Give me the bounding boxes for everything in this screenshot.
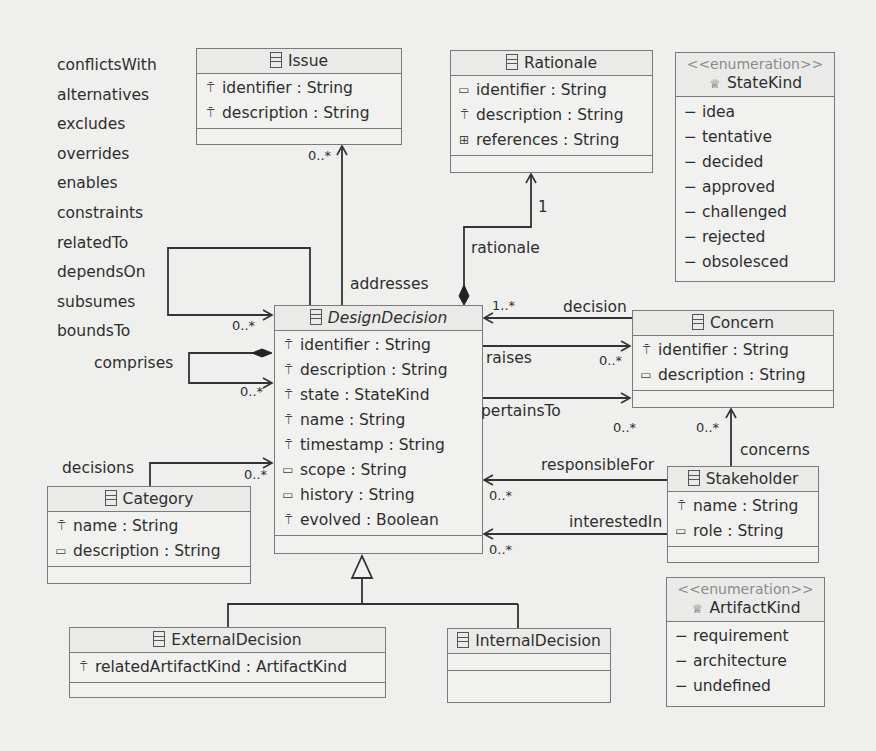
attribute[interactable]: ▭description : String bbox=[54, 539, 250, 564]
class-icon bbox=[105, 490, 117, 506]
attribute[interactable]: ⍑description : String bbox=[281, 358, 482, 383]
key-attribute-icon: ⍑ bbox=[76, 655, 90, 680]
class-icon bbox=[692, 314, 704, 330]
mult-rationale-source: 1..* bbox=[492, 298, 515, 313]
relation-kind: enables bbox=[57, 169, 157, 199]
enum-literal[interactable]: − tentative bbox=[676, 125, 834, 150]
relation-kind: conflictsWith bbox=[57, 51, 157, 81]
key-attribute-icon: ⍑ bbox=[203, 76, 217, 101]
multi-attribute-icon: ⊞ bbox=[457, 128, 471, 153]
label-interestedIn: interestedIn bbox=[569, 513, 662, 531]
enum-literal[interactable]: − requirement bbox=[667, 624, 824, 649]
key-attribute-icon: ⍑ bbox=[203, 101, 217, 126]
class-name: Category bbox=[123, 490, 194, 508]
class-icon bbox=[506, 54, 518, 70]
attribute[interactable]: ▭role : String bbox=[674, 519, 818, 544]
key-attribute-icon: ⍑ bbox=[639, 338, 653, 363]
class-designdecision[interactable]: DesignDecision ⍑identifier : String ⍑des… bbox=[274, 305, 483, 554]
enum-literal[interactable]: − rejected bbox=[676, 225, 834, 250]
class-name: InternalDecision bbox=[475, 632, 601, 650]
enum-statekind[interactable]: <<enumeration>> ♕StateKind − idea − tent… bbox=[675, 52, 835, 282]
attribute[interactable]: ▭scope : String bbox=[281, 458, 482, 483]
class-rationale[interactable]: Rationale ▭identifier : String ⍑descript… bbox=[450, 50, 653, 173]
mult-pertainsTo: 0..* bbox=[613, 420, 636, 435]
class-internaldecision[interactable]: InternalDecision bbox=[447, 628, 611, 703]
class-name: Rationale bbox=[524, 54, 597, 72]
mult-addresses: 0..* bbox=[308, 148, 331, 163]
enum-literal[interactable]: − idea bbox=[676, 100, 834, 125]
relation-kinds-list: conflictsWith alternatives excludes over… bbox=[57, 51, 157, 347]
class-name: Stakeholder bbox=[706, 470, 799, 488]
key-attribute-icon: ⍑ bbox=[281, 508, 295, 533]
class-icon bbox=[270, 52, 282, 68]
class-category[interactable]: Category ⍑name : String ▭description : S… bbox=[47, 486, 251, 584]
attribute[interactable]: ⍑evolved : Boolean bbox=[281, 508, 482, 533]
attribute[interactable]: ⍑identifier : String bbox=[203, 76, 401, 101]
enum-literal[interactable]: − undefined bbox=[667, 674, 824, 699]
key-attribute-icon: ⍑ bbox=[281, 383, 295, 408]
mult-raises: 0..* bbox=[599, 353, 622, 368]
relation-kind: overrides bbox=[57, 140, 157, 170]
key-attribute-icon: ⍑ bbox=[457, 103, 471, 128]
class-stakeholder[interactable]: Stakeholder ⍑name : String ▭role : Strin… bbox=[667, 466, 819, 563]
relation-kind: boundsTo bbox=[57, 317, 157, 347]
label-addresses: addresses bbox=[350, 275, 429, 293]
enum-literal[interactable]: − decided bbox=[676, 150, 834, 175]
relation-kind: dependsOn bbox=[57, 258, 157, 288]
label-decisions: decisions bbox=[62, 459, 134, 477]
attribute[interactable]: ⍑state : StateKind bbox=[281, 383, 482, 408]
key-attribute-icon: ⍑ bbox=[281, 433, 295, 458]
key-attribute-icon: ⍑ bbox=[54, 514, 68, 539]
class-name: StateKind bbox=[727, 74, 802, 92]
relation-kind: constraints bbox=[57, 199, 157, 229]
class-externaldecision[interactable]: ExternalDecision ⍑relatedArtifactKind : … bbox=[69, 627, 386, 698]
enum-literal[interactable]: − architecture bbox=[667, 649, 824, 674]
class-name: ArtifactKind bbox=[709, 599, 800, 617]
class-name: Concern bbox=[710, 314, 774, 332]
key-attribute-icon: ⍑ bbox=[281, 358, 295, 383]
label-raises: raises bbox=[486, 349, 532, 367]
mult-interestedIn: 0..* bbox=[489, 542, 512, 557]
class-icon bbox=[457, 632, 469, 648]
relation-kind: subsumes bbox=[57, 288, 157, 318]
attribute-icon: ▭ bbox=[54, 539, 68, 564]
label-comprises: comprises bbox=[94, 354, 173, 372]
enum-literal[interactable]: − approved bbox=[676, 175, 834, 200]
attribute[interactable]: ⍑name : String bbox=[674, 494, 818, 519]
attribute[interactable]: ⍑identifier : String bbox=[281, 333, 482, 358]
class-name: DesignDecision bbox=[328, 309, 448, 327]
attribute-compartment bbox=[448, 654, 610, 671]
stereotype: <<enumeration>> bbox=[676, 55, 834, 73]
mult-comprises: 0..* bbox=[240, 384, 263, 399]
attribute[interactable]: ▭identifier : String bbox=[457, 78, 652, 103]
enum-literal[interactable]: − challenged bbox=[676, 200, 834, 225]
attribute[interactable]: ⍑relatedArtifactKind : ArtifactKind bbox=[76, 655, 385, 680]
mult-concerns: 0..* bbox=[696, 420, 719, 435]
attribute[interactable]: ⍑description : String bbox=[457, 103, 652, 128]
attribute-icon: ▭ bbox=[639, 363, 653, 388]
mult-rationale-target: 1 bbox=[538, 198, 548, 216]
class-name: ExternalDecision bbox=[171, 631, 301, 649]
attribute[interactable]: ▭history : String bbox=[281, 483, 482, 508]
label-responsibleFor: responsibleFor bbox=[541, 456, 654, 474]
class-concern[interactable]: Concern ⍑identifier : String ▭descriptio… bbox=[632, 310, 834, 408]
attribute[interactable]: ⍑name : String bbox=[54, 514, 250, 539]
label-concerns: concerns bbox=[740, 441, 810, 459]
class-icon bbox=[688, 470, 700, 486]
attribute[interactable]: ⍑identifier : String bbox=[639, 338, 833, 363]
attribute[interactable]: ⍑timestamp : String bbox=[281, 433, 482, 458]
class-icon bbox=[310, 309, 322, 325]
attribute[interactable]: ▭description : String bbox=[639, 363, 833, 388]
key-attribute-icon: ⍑ bbox=[281, 333, 295, 358]
attribute[interactable]: ⊞references : String bbox=[457, 128, 652, 153]
attribute[interactable]: ⍑name : String bbox=[281, 408, 482, 433]
attribute-icon: ▭ bbox=[281, 483, 295, 508]
attribute[interactable]: ⍑description : String bbox=[203, 101, 401, 126]
attribute-icon: ▭ bbox=[674, 519, 688, 544]
enum-literal[interactable]: − obsolesced bbox=[676, 250, 834, 275]
label-rationale: rationale bbox=[471, 239, 540, 257]
class-issue[interactable]: Issue ⍑identifier : String ⍑description … bbox=[196, 48, 402, 145]
enum-artifactkind[interactable]: <<enumeration>> ♕ArtifactKind − requirem… bbox=[666, 577, 825, 707]
mult-responsibleFor: 0..* bbox=[489, 488, 512, 503]
class-name: Issue bbox=[288, 52, 328, 70]
